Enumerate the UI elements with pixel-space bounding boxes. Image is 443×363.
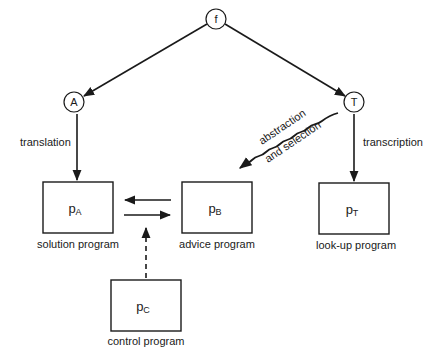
diagram-canvas: f A T translation transcription abstract… xyxy=(0,0,443,363)
node-f: f xyxy=(206,9,226,29)
pc-caption: control program xyxy=(107,335,184,347)
node-a: A xyxy=(64,92,84,112)
pb-caption: advice program xyxy=(179,238,255,250)
node-t-label: T xyxy=(351,96,358,108)
program-box-pb: pB xyxy=(182,182,252,233)
node-t: T xyxy=(344,92,364,112)
edge-f-to-a xyxy=(84,24,207,96)
program-box-pt: pT xyxy=(319,183,389,234)
node-a-label: A xyxy=(70,96,78,108)
transcription-label: transcription xyxy=(363,136,423,148)
translation-label: translation xyxy=(20,136,71,148)
program-box-pc: pC xyxy=(111,280,181,331)
edge-f-to-t xyxy=(225,24,345,96)
pa-caption: solution program xyxy=(37,238,119,250)
program-box-pa: pA xyxy=(43,182,113,233)
pt-caption: look-up program xyxy=(316,239,396,251)
